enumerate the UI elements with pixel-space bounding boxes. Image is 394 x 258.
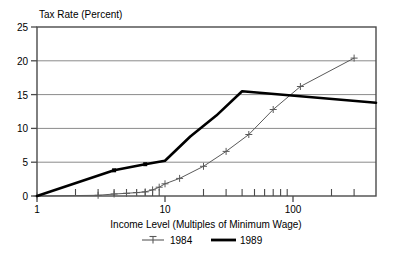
chart-title: Tax Rate (Percent) <box>39 9 122 20</box>
y-tick-label-15: 15 <box>17 90 29 101</box>
marker-square <box>112 168 116 172</box>
x-tick-label-100: 100 <box>285 204 302 215</box>
x-axis-title: Income Level (Multiples of Minimum Wage) <box>110 219 301 230</box>
y-tick-label-25: 25 <box>17 22 29 33</box>
x-tick-label-10: 10 <box>159 204 171 215</box>
y-tick-label-5: 5 <box>22 157 28 168</box>
marker-square <box>143 162 147 166</box>
x-tick-label-1: 1 <box>34 204 40 215</box>
y-tick-label-0: 0 <box>22 191 28 202</box>
y-tick-label-20: 20 <box>17 56 29 67</box>
legend-label-1984: 1984 <box>170 235 193 246</box>
tax-rate-line-chart: 25 20 15 10 5 0 <box>0 0 394 258</box>
legend-label-1989: 1989 <box>240 235 263 246</box>
chart-figure: 25 20 15 10 5 0 <box>0 0 394 258</box>
y-tick-label-10: 10 <box>17 123 29 134</box>
